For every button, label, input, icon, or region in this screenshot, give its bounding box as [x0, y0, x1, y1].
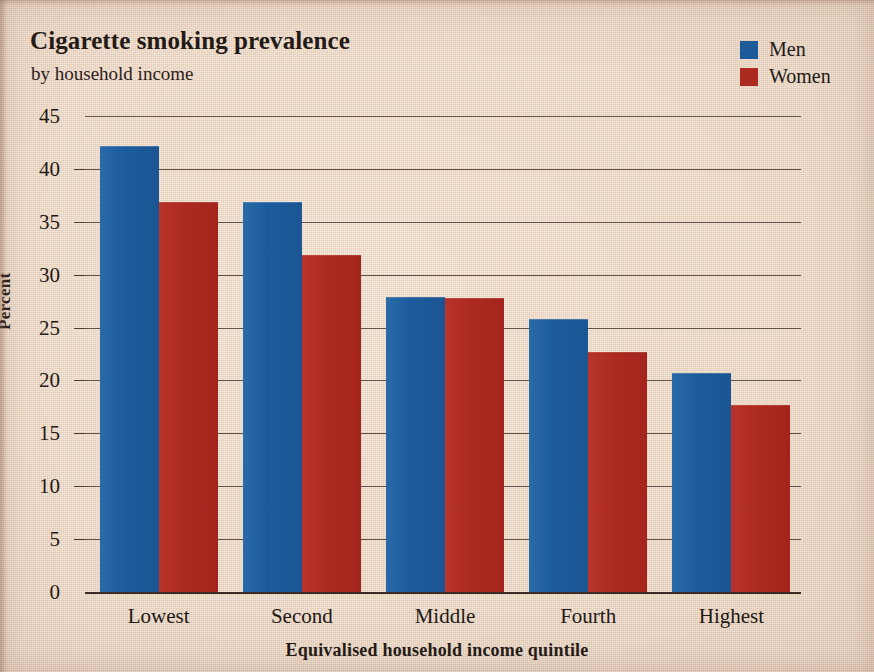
legend-item-men: Men: [740, 36, 862, 63]
legend-item-women: Women: [740, 63, 862, 90]
page-edge-shadow-left: [0, 0, 7, 672]
bar-highest-women: [731, 405, 790, 592]
x-axis-tick-label-highest: Highest: [699, 604, 764, 629]
legend-label-men: Men: [769, 38, 806, 61]
y-axis-tick-label: 5: [16, 527, 60, 552]
y-axis-tick-label: 15: [16, 421, 60, 446]
x-axis-title: Equivalised household income quintile: [0, 640, 874, 661]
y-axis-tick: [74, 222, 85, 223]
y-axis-tick-label: 0: [16, 580, 60, 605]
y-axis-tick-label: 10: [16, 474, 60, 499]
legend-swatch-women: [740, 68, 758, 86]
bar-second-men: [243, 202, 302, 592]
y-axis-tick-label: 35: [16, 209, 60, 234]
x-axis-tick-label-fourth: Fourth: [560, 604, 616, 629]
bar-fourth-men: [529, 319, 588, 592]
y-axis-tick: [74, 539, 85, 540]
chart-subtitle: by household income: [31, 63, 194, 85]
legend-swatch-men: [740, 41, 758, 59]
plot-area: LowestSecondMiddleFourthHighest: [85, 116, 801, 592]
y-axis-tick: [74, 328, 85, 329]
y-axis-tick: [74, 486, 85, 487]
bar-fourth-women: [588, 352, 647, 592]
bar-highest-men: [672, 373, 731, 592]
x-axis-tick-label-lowest: Lowest: [128, 604, 190, 629]
legend-label-women: Women: [769, 65, 831, 88]
chart-legend: Men Women: [740, 36, 862, 90]
y-axis-tick-labels: 051015202530354045: [16, 116, 60, 592]
y-axis-tick-label: 40: [16, 156, 60, 181]
gridline: [85, 169, 801, 170]
y-axis-title: Percent: [0, 273, 15, 330]
bar-middle-men: [386, 297, 445, 592]
y-axis-tick-label: 45: [16, 104, 60, 129]
y-axis-tick: [74, 433, 85, 434]
page-edge-shadow-top: [0, 0, 874, 5]
y-axis-tick-label: 30: [16, 262, 60, 287]
bar-lowest-women: [159, 202, 218, 592]
bar-second-women: [302, 255, 361, 592]
gridline: [85, 116, 801, 117]
bar-lowest-men: [100, 146, 159, 592]
bar-middle-women: [445, 298, 504, 592]
y-axis-tick: [74, 380, 85, 381]
x-axis-baseline: [85, 592, 801, 594]
y-axis-tick: [74, 169, 85, 170]
y-axis-tick-label: 25: [16, 315, 60, 340]
chart-page: Cigarette smoking prevalence by househol…: [0, 0, 874, 672]
x-axis-tick-label-second: Second: [271, 604, 333, 629]
chart-title: Cigarette smoking prevalence: [30, 27, 350, 55]
x-axis-tick-label-middle: Middle: [415, 604, 476, 629]
y-axis-tick-label: 20: [16, 368, 60, 393]
y-axis-tick: [74, 275, 85, 276]
